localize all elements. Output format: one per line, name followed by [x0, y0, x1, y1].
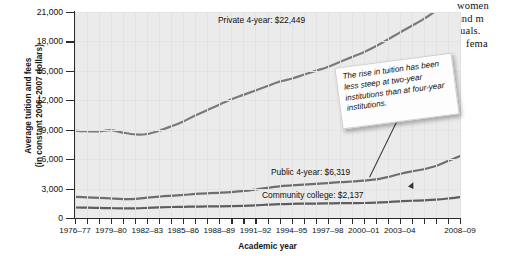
x-axis-title: Academic year — [75, 241, 460, 251]
y-axis-tick-label: 21,000 — [3, 7, 63, 17]
x-axis-tick-label: 2003–04 — [377, 226, 423, 235]
x-axis-tick — [460, 219, 461, 224]
y-axis-tick-label: 9,000 — [3, 125, 63, 135]
x-axis-tick — [195, 219, 196, 224]
y-axis-tick — [66, 71, 74, 72]
x-axis-tick — [280, 219, 281, 224]
annotation-text: The rise in tuition has been less steep … — [342, 58, 452, 115]
gridline-vertical — [123, 12, 124, 218]
y-axis-tick-label: 18,000 — [3, 36, 63, 46]
x-axis-tick — [159, 219, 160, 224]
x-axis-tick — [219, 219, 220, 224]
series-label-public-4-year: Public 4-year: $6,319 — [271, 167, 350, 177]
x-axis-tick — [364, 219, 365, 224]
x-axis-tick — [255, 219, 256, 224]
gridline-vertical — [328, 12, 329, 218]
gridline-vertical — [87, 12, 88, 218]
bleed-line-1: women — [457, 0, 515, 13]
gridline-vertical — [292, 12, 293, 218]
y-axis-tick-label: 15,000 — [3, 66, 63, 76]
y-axis-tick-label: 0 — [3, 213, 63, 223]
y-axis-tick-label: 3,000 — [3, 184, 63, 194]
y-axis-tick-label: 12,000 — [3, 95, 63, 105]
y-axis-tick — [66, 130, 74, 131]
gridline-vertical — [280, 12, 281, 218]
x-axis-tick — [207, 219, 208, 224]
x-axis-tick — [171, 219, 172, 224]
y-axis-tick — [66, 41, 74, 42]
series-label-private-4-year: Private 4-year: $22,449 — [218, 15, 305, 25]
bleed-line-3: tuals. — [457, 25, 515, 38]
y-axis-tick — [66, 159, 74, 160]
gridline-vertical — [147, 12, 148, 218]
x-axis-tick — [352, 219, 353, 224]
y-axis-line — [74, 11, 75, 219]
x-axis-tick — [231, 219, 232, 224]
x-axis-tick — [135, 219, 136, 224]
gridline-vertical — [171, 12, 172, 218]
x-axis-tick — [388, 219, 389, 224]
x-axis-tick — [448, 219, 449, 224]
x-axis-tick — [268, 219, 269, 224]
x-axis-tick — [147, 219, 148, 224]
x-axis-tick — [436, 219, 437, 224]
x-axis-tick — [376, 219, 377, 224]
gridline-vertical — [316, 12, 317, 218]
bleed-line-2: and m — [457, 13, 515, 26]
gridline-vertical — [231, 12, 232, 218]
series-label-community-college: Community college: $2,137 — [262, 190, 364, 200]
gridline-vertical — [243, 12, 244, 218]
gridline-vertical — [219, 12, 220, 218]
y-axis-tick — [66, 189, 74, 190]
gridline-vertical — [195, 12, 196, 218]
x-axis-tick-label: 2008–09 — [437, 226, 483, 235]
y-axis-tick — [66, 12, 74, 13]
bleed-line-4: fema — [457, 38, 515, 51]
x-axis-tick — [400, 219, 401, 224]
gridline-vertical — [304, 12, 305, 218]
gridline-vertical — [460, 12, 461, 218]
gridline-vertical — [207, 12, 208, 218]
x-axis-tick — [292, 219, 293, 224]
y-axis-tick — [66, 100, 74, 101]
x-axis-tick — [340, 219, 341, 224]
x-axis-tick — [412, 219, 413, 224]
y-axis-tick — [66, 218, 74, 219]
x-axis-tick — [111, 219, 112, 224]
page-bleed-text: women and m tuals. fema — [457, 0, 515, 56]
x-axis-tick — [316, 219, 317, 224]
x-axis-tick — [99, 219, 100, 224]
gridline-vertical — [135, 12, 136, 218]
gridline-vertical — [111, 12, 112, 218]
y-axis-tick-label: 6,000 — [3, 154, 63, 164]
x-axis-tick — [304, 219, 305, 224]
gridline-vertical — [159, 12, 160, 218]
x-axis-tick — [75, 219, 76, 224]
x-axis-tick — [328, 219, 329, 224]
x-axis-tick — [87, 219, 88, 224]
x-axis-tick — [243, 219, 244, 224]
gridline-vertical — [183, 12, 184, 218]
x-axis-tick — [424, 219, 425, 224]
chart-figure: women and m tuals. fema Average tuition … — [0, 0, 515, 256]
x-axis-tick — [183, 219, 184, 224]
gridline-vertical — [255, 12, 256, 218]
gridline-vertical — [268, 12, 269, 218]
gridline-vertical — [99, 12, 100, 218]
x-axis-tick — [123, 219, 124, 224]
